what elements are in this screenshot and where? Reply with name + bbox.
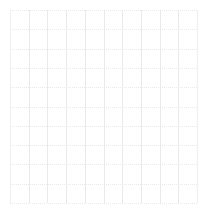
plot-grid-area — [10, 10, 197, 203]
vertical-gridline — [29, 10, 30, 203]
vertical-gridline — [122, 10, 123, 203]
vertical-gridline — [104, 10, 105, 203]
minor-tick-cluster — [160, 30, 161, 46]
vertical-gridline — [47, 10, 48, 203]
vertical-gridline — [160, 10, 161, 203]
horizontal-gridline — [10, 184, 197, 185]
horizontal-gridline — [10, 126, 197, 127]
vertical-gridline — [197, 10, 198, 203]
vertical-gridline — [10, 10, 11, 203]
horizontal-gridline — [10, 29, 197, 30]
horizontal-gridline — [10, 145, 197, 146]
vertical-gridline — [178, 10, 179, 203]
vertical-gridline — [141, 10, 142, 203]
vertical-gridline — [85, 10, 86, 203]
horizontal-gridline — [10, 10, 197, 11]
vertical-gridline — [66, 10, 67, 203]
horizontal-gridline — [10, 68, 197, 69]
minor-tick-layer — [10, 10, 197, 203]
horizontal-gridline — [10, 203, 197, 204]
horizontal-gridline — [10, 107, 197, 108]
chart-canvas — [0, 0, 207, 220]
vertical-gridlines-layer — [10, 10, 197, 203]
horizontal-gridline — [10, 164, 197, 165]
horizontal-gridline — [10, 49, 197, 50]
horizontal-gridline — [10, 87, 197, 88]
horizontal-gridlines-layer — [10, 10, 197, 203]
